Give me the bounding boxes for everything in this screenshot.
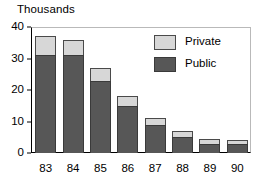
bar-group[interactable] <box>227 140 248 153</box>
x-tick-label: 89 <box>204 162 217 174</box>
y-tick-mark <box>27 58 31 59</box>
y-tick-label: 20 <box>11 84 24 96</box>
y-tick-label: 0 <box>18 147 24 159</box>
chart-legend: Private Public <box>154 33 221 77</box>
y-tick-label: 30 <box>11 53 24 65</box>
x-tick-label: 83 <box>39 162 52 174</box>
bar-segment-private[interactable] <box>117 96 138 105</box>
bar-segment-public[interactable] <box>145 125 166 153</box>
y-tick-label: 10 <box>11 116 24 128</box>
x-tick-label: 90 <box>231 162 244 174</box>
y-tick-label: 40 <box>11 21 24 33</box>
bar-segment-private[interactable] <box>90 68 111 81</box>
bar-group[interactable] <box>35 36 56 153</box>
bar-group[interactable] <box>90 68 111 153</box>
x-axis: 8384858687888990 <box>32 153 251 183</box>
bar-group[interactable] <box>172 131 193 153</box>
y-tick-mark <box>27 27 31 28</box>
bar-group[interactable] <box>63 40 84 153</box>
bar-segment-public[interactable] <box>199 144 220 153</box>
bar-segment-public[interactable] <box>227 144 248 153</box>
legend-item-private: Private <box>154 33 221 51</box>
stacked-bar-chart: Thousands 010203040 8384858687888990 Pri… <box>0 0 258 185</box>
bar-group[interactable] <box>117 96 138 153</box>
bar-segment-public[interactable] <box>90 81 111 153</box>
legend-swatch-public-icon <box>154 57 176 72</box>
legend-label-private: Private <box>185 36 221 48</box>
bar-segment-private[interactable] <box>35 36 56 55</box>
bar-segment-public[interactable] <box>172 137 193 153</box>
y-tick-mark <box>27 90 31 91</box>
legend-item-public: Public <box>154 55 221 73</box>
bar-group[interactable] <box>199 139 220 153</box>
x-tick-label: 84 <box>67 162 80 174</box>
y-tick-mark <box>27 121 31 122</box>
bar-segment-public[interactable] <box>63 55 84 153</box>
bar-segment-public[interactable] <box>117 106 138 153</box>
legend-swatch-private-icon <box>154 35 176 50</box>
x-tick-label: 85 <box>94 162 107 174</box>
y-axis: 010203040 <box>0 20 31 160</box>
x-tick-label: 88 <box>176 162 189 174</box>
x-tick-label: 87 <box>149 162 162 174</box>
chart-title: Thousands <box>17 3 75 15</box>
legend-label-public: Public <box>185 58 216 70</box>
bar-group[interactable] <box>145 118 166 153</box>
bar-segment-private[interactable] <box>63 40 84 56</box>
x-tick-label: 86 <box>121 162 134 174</box>
y-tick-mark <box>27 153 31 154</box>
bar-segment-public[interactable] <box>35 55 56 153</box>
